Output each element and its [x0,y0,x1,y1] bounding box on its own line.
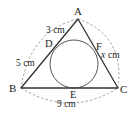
vertex-label-b: B [9,82,16,94]
measure-bc: 9 cm [57,99,76,109]
measure-ad: 3 cm [46,25,65,35]
measure-bd: 5 cm [16,58,35,68]
measure-cf-unit: cm [108,50,120,60]
tangent-label-d: D [45,38,53,49]
vertex-label-c: C [120,83,127,95]
incircle [50,40,98,88]
measure-cf-var: x [100,50,106,60]
vertex-label-a: A [74,5,82,17]
triangle-incircle-diagram: A B C D E F 3 cm 5 cm 9 cm x cm [0,0,137,116]
